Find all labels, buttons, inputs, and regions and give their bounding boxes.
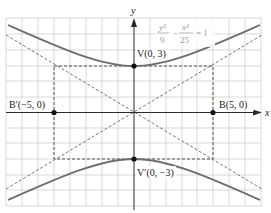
label-V-prime: V′(0, −3) <box>137 167 174 179</box>
equation-equals: = 1 <box>196 28 208 38</box>
equation-denominator-2: 25 <box>180 35 190 45</box>
hyperbola-plot: x y V(0, 3) V′(0, −3) B(5, 0) B′(−5, 0) … <box>0 0 271 213</box>
hyperbola-figure: x y V(0, 3) V′(0, −3) B(5, 0) B′(−5, 0) … <box>0 0 271 213</box>
equation-denominator-1: 9 <box>160 35 165 45</box>
label-B-prime: B′(−5, 0) <box>9 99 45 111</box>
label-B: B(5, 0) <box>219 99 247 111</box>
y-axis-label: y <box>130 5 136 16</box>
x-axis-label: x <box>264 107 270 118</box>
point-B-prime <box>51 110 56 115</box>
point-B <box>210 110 215 115</box>
equation-minus: − <box>173 28 178 38</box>
point-V <box>131 63 136 68</box>
equation-numerator-1: y² <box>158 22 166 32</box>
equation: y² 9 − x² 25 = 1 <box>155 19 215 47</box>
label-V: V(0, 3) <box>137 48 166 60</box>
equation-numerator-2: x² <box>181 22 189 32</box>
point-V-prime <box>131 156 136 161</box>
y-axis-arrow-icon <box>131 18 137 27</box>
